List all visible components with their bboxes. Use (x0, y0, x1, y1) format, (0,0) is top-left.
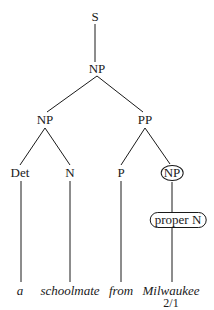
node-det: Det (11, 166, 30, 180)
word-a: a (17, 284, 24, 298)
node-s: S (91, 10, 98, 24)
word-from: from (109, 284, 133, 298)
node-p: P (117, 166, 124, 180)
node-np-left: NP (37, 113, 54, 127)
node-np-top: NP (89, 62, 106, 76)
node-np-right-circled: NP (161, 165, 184, 181)
word-schoolmate: schoolmate (40, 284, 99, 298)
node-n: N (65, 166, 74, 180)
node-proper-n-boxed: proper N (150, 212, 207, 228)
caption: 2/1 (163, 296, 178, 310)
node-pp: PP (138, 113, 152, 127)
